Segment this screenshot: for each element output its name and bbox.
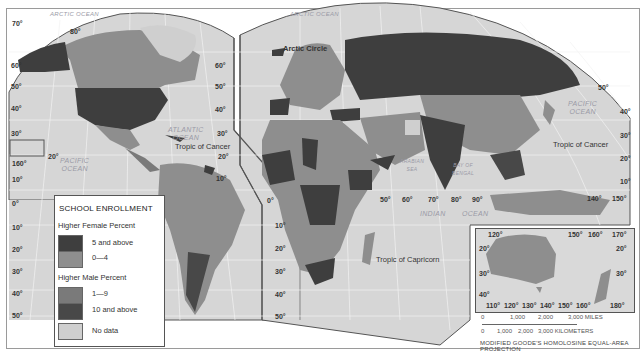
- legend-swatch: [58, 235, 83, 252]
- scale-miles: 2,000: [538, 314, 553, 320]
- legend-title: SCHOOL ENROLLMENT: [59, 204, 153, 213]
- australia-inset: 120° 150° 160° 170° 20° 30° 40° 20° 30° …: [475, 228, 635, 313]
- pacific-ocean-label: PACIFIC OCEAN: [60, 157, 89, 173]
- lat-label: 60°: [11, 62, 22, 69]
- lat-label: 30°: [217, 130, 228, 137]
- lat-label: 0°: [267, 197, 274, 204]
- lat-label: 50°: [598, 84, 609, 91]
- legend-swatch: [58, 303, 83, 320]
- legend-heading: Higher Male Percent: [58, 273, 126, 282]
- lat-label: 60°: [215, 62, 226, 69]
- lat-label: 10°: [12, 176, 23, 183]
- tropic-of-capricorn-label: Tropic of Capricorn: [376, 255, 440, 264]
- lat-label: 30°: [620, 132, 631, 139]
- legend-heading: Higher Female Percent: [58, 221, 135, 230]
- legend-label: 10 and above: [92, 305, 137, 314]
- lat-label: 10°: [12, 224, 23, 231]
- lat-label: 10°: [216, 175, 227, 182]
- lat-label: 30°: [12, 268, 23, 275]
- lon-label: 80°: [451, 196, 462, 203]
- lat-label: 70°: [12, 20, 23, 27]
- chad: [302, 138, 318, 170]
- ethiopia: [348, 170, 372, 190]
- arabian-sea-label: ARABIAN SEA: [400, 157, 424, 173]
- lat-label: 40°: [620, 108, 631, 115]
- scale-miles: 0: [481, 314, 484, 320]
- lat-label: 50°: [11, 83, 22, 90]
- lat-label: 0°: [12, 200, 19, 207]
- spain: [270, 98, 290, 115]
- inset-lon-label: 150°: [558, 302, 572, 309]
- legend-swatch: [58, 323, 83, 340]
- inset-lon-label: 120°: [488, 231, 502, 238]
- lon-label: 70°: [428, 196, 439, 203]
- lat-label: 50°: [275, 313, 286, 320]
- inset-lon-label: 150°: [568, 231, 582, 238]
- lat-label: 10°: [620, 178, 631, 185]
- scale-km: 3,000 KILOMETERS: [538, 328, 593, 334]
- lat-label: 30°: [11, 130, 22, 137]
- lat-label: 160°: [12, 160, 26, 167]
- inset-lat-label: 20°: [616, 245, 627, 252]
- lat-label: 20°: [12, 246, 23, 253]
- indian-ocean-label: OCEAN: [462, 210, 488, 218]
- inset-lat-label: 30°: [616, 270, 627, 277]
- inset-lat-label: 40°: [479, 291, 490, 298]
- legend-label: 5 and above: [92, 238, 133, 247]
- lon-label: 150°: [612, 195, 626, 202]
- scale-bar: [482, 324, 577, 325]
- tropic-of-cancer-label: Tropic of Cancer: [553, 140, 608, 149]
- inset-lon-label: 120°: [504, 302, 518, 309]
- legend-swatch: [58, 251, 83, 268]
- legend-swatch: [58, 287, 83, 304]
- scale-km: 0: [481, 328, 484, 334]
- inset-lon-label: 140°: [540, 302, 554, 309]
- legend-label: 1—9: [92, 289, 108, 298]
- atlantic-ocean-label: ATLANTIC OCEAN: [168, 126, 204, 142]
- lat-label: 10°: [275, 222, 286, 229]
- pacific-ocean-label: PACIFIC OCEAN: [568, 100, 597, 116]
- lat-label: 40°: [275, 291, 286, 298]
- lon-label: 90°: [472, 196, 483, 203]
- lon-label: 60°: [402, 196, 413, 203]
- lat-label: 50°: [215, 83, 226, 90]
- tropic-of-cancer-label: Tropic of Cancer: [175, 142, 230, 151]
- lat-label: 20°: [48, 153, 59, 160]
- inset-lon-label: 180°: [610, 302, 624, 309]
- arctic-circle-label: Arctic Circle: [283, 44, 327, 53]
- scale-km: 1,000: [497, 328, 512, 334]
- turkey: [330, 108, 360, 122]
- lat-label: 80°: [70, 28, 81, 35]
- inset-lat-label: 20°: [479, 245, 490, 252]
- inset-lon-label: 130°: [522, 302, 536, 309]
- indian-ocean-label: INDIAN: [420, 210, 446, 218]
- legend-label: 0—4: [92, 253, 108, 262]
- russia: [345, 33, 580, 101]
- arctic-ocean-label: ARCTIC OCEAN: [50, 10, 99, 18]
- lon-label: 50°: [380, 196, 391, 203]
- scale-km: 2,000: [518, 328, 533, 334]
- inset-lon-label: 160°: [576, 302, 590, 309]
- lat-label: 20°: [218, 153, 229, 160]
- lat-label: 40°: [12, 290, 23, 297]
- lat-label: 40°: [11, 105, 22, 112]
- inset-lat-label: 30°: [479, 270, 490, 277]
- legend-label: No data: [92, 326, 118, 335]
- legend: SCHOOL ENROLLMENT Higher Female Percent …: [54, 195, 165, 347]
- inset-lon-label: 170°: [612, 231, 626, 238]
- inset-lon-label: 110°: [486, 302, 500, 309]
- lat-label: 20°: [275, 245, 286, 252]
- lon-label: 140°: [587, 195, 601, 202]
- iran: [405, 120, 420, 135]
- lat-label: 20°: [620, 155, 631, 162]
- scale-miles: 3,000 MILES: [568, 314, 603, 320]
- lat-label: 40°: [215, 106, 226, 113]
- lat-label: 50°: [12, 312, 23, 319]
- arctic-ocean-label: ARCTIC OCEAN: [290, 10, 339, 18]
- projection-label: MODIFIED GOODE'S HOMOLOSINE EQUAL-AREA P…: [480, 340, 643, 352]
- scale-miles: 1,000: [510, 314, 525, 320]
- alaska: [18, 42, 70, 72]
- inset-lon-label: 160°: [588, 231, 602, 238]
- bay-of-bengal-label: BAY OF BENGAL: [452, 161, 474, 177]
- lat-label: 30°: [275, 268, 286, 275]
